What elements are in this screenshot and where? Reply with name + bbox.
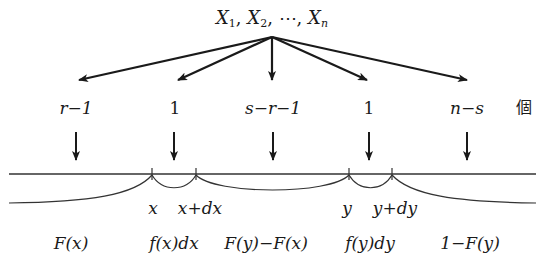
prob-label-2: f(x)dx — [149, 235, 199, 252]
fan-arrow-2 — [178, 37, 272, 80]
count-label-2: 1 — [170, 100, 181, 117]
random-variables-title: X1, X2, ⋯, Xn — [216, 9, 328, 29]
brace-y-dy — [349, 175, 392, 188]
fan-arrows — [79, 37, 467, 80]
point-label-y: y — [342, 200, 352, 217]
count-label-4: 1 — [364, 100, 375, 117]
fan-arrow-5 — [272, 37, 467, 80]
fan-arrow-4 — [272, 37, 367, 80]
brace-middle — [196, 175, 349, 190]
brace-x-dx — [152, 175, 196, 188]
down-arrows — [76, 132, 467, 160]
count-label-3: s−r−1 — [245, 100, 301, 117]
prob-label-3: F(y)−F(x) — [224, 235, 308, 252]
point-label-y-dy: y+dy — [373, 200, 417, 217]
point-label-x-dx: x+dx — [178, 200, 222, 217]
prob-label-1: F(x) — [54, 235, 89, 252]
diagram-canvas — [0, 0, 544, 257]
point-label-x: x — [148, 200, 158, 217]
prob-label-5: 1−F(y) — [440, 235, 500, 252]
prob-label-4: f(y)dy — [345, 235, 395, 252]
interval-braces — [9, 175, 536, 203]
brace-left — [9, 175, 152, 203]
fan-arrow-1 — [79, 37, 272, 80]
count-label-1: r−1 — [59, 100, 92, 117]
count-unit-label: 個 — [516, 100, 532, 116]
count-label-5: n−s — [450, 100, 484, 117]
